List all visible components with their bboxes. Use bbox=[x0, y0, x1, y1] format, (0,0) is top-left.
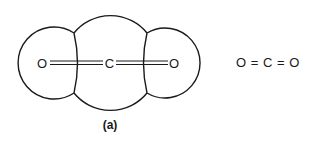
atom-label-c: C bbox=[105, 56, 114, 71]
left-oxygen-sphere bbox=[18, 27, 77, 99]
figure-caption: (a) bbox=[103, 118, 118, 132]
atom-label-left-o: O bbox=[37, 56, 47, 71]
co2-orbital-diagram: O C O (a) bbox=[0, 0, 314, 146]
structural-formula: O = C = O bbox=[236, 55, 300, 70]
atom-label-right-o: O bbox=[169, 56, 179, 71]
right-double-bond bbox=[116, 61, 168, 65]
left-double-bond bbox=[50, 61, 103, 65]
